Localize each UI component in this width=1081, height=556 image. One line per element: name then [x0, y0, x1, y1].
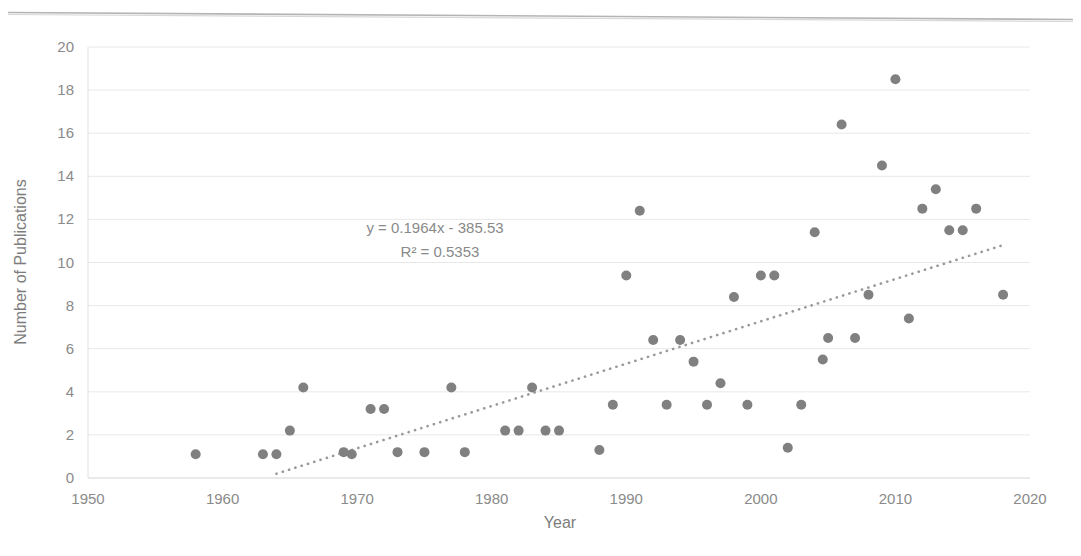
y-tick-label: 2	[66, 426, 74, 443]
y-tick-label: 16	[57, 124, 74, 141]
data-point	[594, 445, 604, 455]
data-point	[818, 354, 828, 364]
data-point	[675, 335, 685, 345]
data-point	[715, 378, 725, 388]
data-point	[958, 225, 968, 235]
data-point	[608, 400, 618, 410]
data-point	[729, 292, 739, 302]
data-point	[850, 333, 860, 343]
data-point	[298, 382, 308, 392]
y-axis-title: Number of Publications	[12, 179, 29, 344]
data-point	[890, 74, 900, 84]
data-point	[366, 404, 376, 414]
y-tick-labels-group: 02468101214161820	[57, 38, 74, 486]
data-point	[917, 204, 927, 214]
trendline	[276, 245, 1003, 474]
y-tick-label: 4	[66, 383, 74, 400]
data-point	[527, 382, 537, 392]
data-point	[823, 333, 833, 343]
y-tick-label: 20	[57, 38, 74, 55]
data-point	[864, 290, 874, 300]
y-tick-label: 10	[57, 254, 74, 271]
data-point	[191, 449, 201, 459]
plot-area: 02468101214161820 1950196019701980199020…	[0, 0, 1081, 556]
data-point	[258, 449, 268, 459]
x-tick-label: 2020	[1013, 490, 1046, 507]
data-point	[514, 426, 524, 436]
y-tick-label: 0	[66, 469, 74, 486]
y-tick-label: 14	[57, 167, 74, 184]
data-point	[702, 400, 712, 410]
x-tick-label: 2000	[744, 490, 777, 507]
y-tick-label: 6	[66, 340, 74, 357]
y-tick-label: 8	[66, 297, 74, 314]
data-point	[347, 449, 357, 459]
data-point	[393, 447, 403, 457]
data-point	[285, 426, 295, 436]
x-tick-label: 2010	[879, 490, 912, 507]
data-point	[662, 400, 672, 410]
data-point	[944, 225, 954, 235]
data-point	[971, 204, 981, 214]
data-point	[554, 426, 564, 436]
x-tick-label: 1980	[475, 490, 508, 507]
data-point	[379, 404, 389, 414]
r-squared-label: R² = 0.5353	[401, 243, 480, 260]
trendline-equation-label: y = 0.1964x - 385.53	[366, 219, 503, 236]
gridlines-group	[88, 47, 1030, 478]
data-point	[419, 447, 429, 457]
data-point	[648, 335, 658, 345]
x-tick-label: 1990	[610, 490, 643, 507]
data-point	[796, 400, 806, 410]
data-point	[877, 161, 887, 171]
data-point	[742, 400, 752, 410]
x-tick-label: 1950	[71, 490, 104, 507]
x-axis-title: Year	[544, 514, 577, 531]
data-point	[810, 227, 820, 237]
data-point	[783, 443, 793, 453]
data-point	[541, 426, 551, 436]
data-point	[931, 184, 941, 194]
data-points-group	[191, 74, 1008, 459]
data-point	[500, 426, 510, 436]
data-point	[756, 270, 766, 280]
data-point	[271, 449, 281, 459]
scatter-chart-figure: 02468101214161820 1950196019701980199020…	[0, 0, 1081, 556]
trendline-group	[276, 245, 1003, 474]
data-point	[446, 382, 456, 392]
data-point	[621, 270, 631, 280]
x-tick-label: 1970	[340, 490, 373, 507]
y-tick-label: 12	[57, 210, 74, 227]
data-point	[998, 290, 1008, 300]
x-tick-label: 1960	[206, 490, 239, 507]
data-point	[904, 314, 914, 324]
x-tick-labels-group: 19501960197019801990200020102020	[71, 490, 1046, 507]
data-point	[837, 120, 847, 130]
data-point	[635, 206, 645, 216]
data-point	[689, 357, 699, 367]
data-point	[769, 270, 779, 280]
data-point	[460, 447, 470, 457]
y-tick-label: 18	[57, 81, 74, 98]
